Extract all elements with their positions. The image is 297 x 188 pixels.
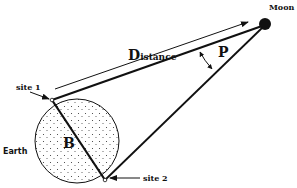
distance-label-rest: istance [140, 52, 176, 62]
site2-label: site 2 [143, 173, 168, 183]
sightline-site1 [52, 26, 262, 100]
moon-dot [259, 18, 271, 30]
earth-circle [35, 99, 119, 183]
site2-marker [103, 178, 107, 182]
moon-label: Moon [269, 2, 294, 12]
parallax-diagram [0, 0, 297, 188]
site1-label: site 1 [16, 82, 41, 92]
baseline-label: B [63, 135, 75, 151]
distance-label-cap: D [128, 47, 140, 63]
site1-pointer-arrow [30, 92, 49, 99]
site1-marker [50, 98, 54, 102]
earth-label: Earth [3, 147, 27, 156]
parallax-angle-arrow [200, 52, 212, 69]
parallax-label: P [218, 44, 229, 60]
distance-label: Distance [128, 47, 176, 63]
